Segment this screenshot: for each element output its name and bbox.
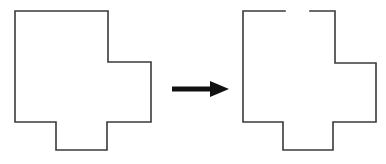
diagram-canvas: Shape transformation diagram — [0, 0, 386, 164]
shape-transformation-figure: Shape transformation diagram — [0, 0, 386, 164]
